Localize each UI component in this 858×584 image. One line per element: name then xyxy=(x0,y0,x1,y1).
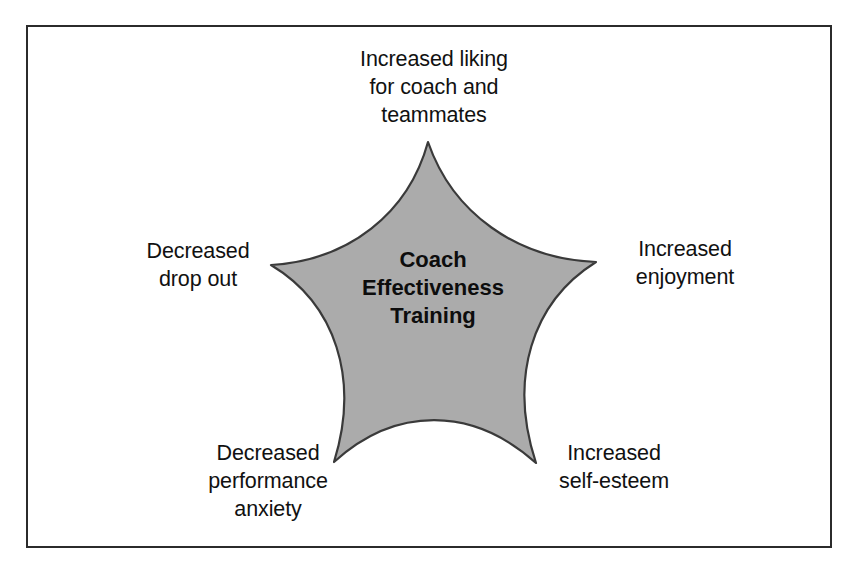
outcome-label-decreased-drop-out: Decreased drop out xyxy=(118,238,278,294)
figure-root: Coach Effectiveness Training Increased l… xyxy=(0,0,858,584)
outcome-label-increased-liking: Increased liking for coach and teammates xyxy=(329,46,539,130)
outcome-label-decreased-performance-anxiety: Decreased performance anxiety xyxy=(168,440,368,524)
star-center-label: Coach Effectiveness Training xyxy=(338,246,528,330)
outcome-label-increased-enjoyment: Increased enjoyment xyxy=(600,236,770,292)
outcome-label-increased-self-esteem: Increased self-esteem xyxy=(524,440,704,496)
